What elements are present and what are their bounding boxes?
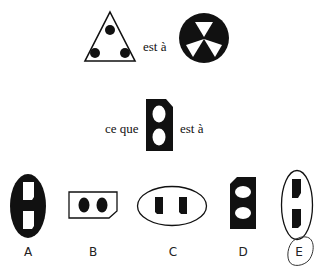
triangle-with-three-dots-icon <box>82 8 138 64</box>
option-a-label: A <box>18 245 38 259</box>
option-c-figure[interactable] <box>136 185 208 227</box>
black-plug-with-two-white-ovals-icon <box>146 99 174 151</box>
est-a-text-2: est à <box>180 121 203 137</box>
option-d-label: D <box>233 245 253 259</box>
option-a-figure[interactable] <box>9 173 47 239</box>
option-b-figure[interactable] <box>68 191 118 219</box>
option-d-figure[interactable] <box>230 177 256 229</box>
option-b-label: B <box>83 245 103 259</box>
ce-que-text: ce que <box>105 121 139 137</box>
option-e-label: E <box>289 245 309 259</box>
option-e-figure[interactable] <box>280 169 314 241</box>
circle-with-three-white-triangles-icon <box>178 12 230 64</box>
option-c-label: C <box>163 245 183 259</box>
est-a-text-1: est à <box>143 39 166 55</box>
